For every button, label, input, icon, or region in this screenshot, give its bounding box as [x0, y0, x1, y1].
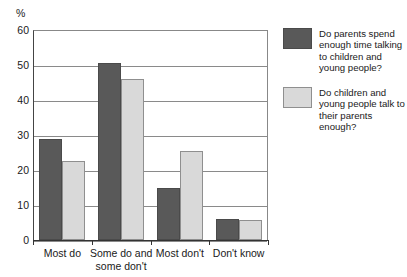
y-axis-tick-label: 40	[1, 95, 29, 105]
bar	[98, 63, 121, 240]
x-axis-tick	[209, 240, 210, 245]
bar	[121, 79, 144, 240]
bar	[239, 220, 262, 240]
y-axis-tick-label: 20	[1, 165, 29, 175]
legend-item: Do parents spend enough time talking to …	[283, 28, 405, 73]
legend-item-label: Do children and young people talk to the…	[319, 87, 405, 132]
bar	[216, 219, 239, 240]
bar	[157, 188, 180, 241]
bar-chart-figure: % 0102030405060 Most doSome do and some …	[0, 0, 407, 277]
y-axis-tick-label: 30	[1, 130, 29, 140]
x-axis-category-label: Don't know	[203, 247, 274, 260]
legend-item-label: Do parents spend enough time talking to …	[319, 28, 405, 73]
bars-layer	[33, 30, 268, 240]
chart-legend: Do parents spend enough time talking to …	[283, 28, 405, 146]
light-gray-swatch	[283, 87, 312, 108]
bar	[39, 139, 62, 241]
y-axis-tick-label: 0	[1, 235, 29, 245]
dark-gray-swatch	[283, 28, 312, 49]
legend-item: Do children and young people talk to the…	[283, 87, 405, 132]
y-axis-tick-label: 60	[1, 25, 29, 35]
x-axis-tick	[151, 240, 152, 245]
bar	[180, 151, 203, 240]
y-axis-tick-label: 50	[1, 60, 29, 70]
y-axis-tick-labels: 0102030405060	[0, 0, 29, 277]
bar	[62, 161, 85, 240]
x-axis-tick	[33, 240, 34, 245]
x-axis-tick	[268, 240, 269, 245]
y-axis-tick-label: 10	[1, 200, 29, 210]
x-axis-tick	[92, 240, 93, 245]
